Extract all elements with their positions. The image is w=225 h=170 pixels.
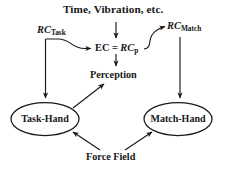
- edge-rctask-to-ec: [46, 39, 92, 49]
- rc-task-base: RC: [37, 24, 51, 35]
- rc-match-base: RC: [167, 20, 181, 31]
- rc-task-label: RCTask: [37, 25, 66, 35]
- ec-rhs-subscript: p: [134, 46, 138, 55]
- edge-forcefield-to-matchhand: [125, 132, 152, 150]
- diagram-canvas: Time, Vibration, etc. RCTask RCMatch EC=…: [0, 0, 225, 170]
- ec-rhs-base: RC: [120, 42, 134, 53]
- rc-match-subscript: Match: [181, 24, 202, 33]
- ec-lhs: EC: [95, 42, 109, 53]
- ec-equals: =: [112, 42, 118, 53]
- rc-match-label: RCMatch: [167, 21, 201, 31]
- task-hand-label: Task-Hand: [11, 114, 79, 124]
- rc-task-subscript: Task: [51, 28, 66, 37]
- title-input-label: Time, Vibration, etc.: [63, 4, 163, 15]
- edge-taskhand-to-perception: [73, 84, 104, 108]
- edge-ec-to-rcmatch: [144, 27, 165, 50]
- ec-equation-label: EC=RCp: [95, 43, 138, 53]
- force-field-label: Force Field: [86, 152, 135, 162]
- match-hand-label: Match-Hand: [144, 114, 212, 124]
- edge-forcefield-to-taskhand: [73, 132, 100, 150]
- perception-label: Perception: [90, 70, 137, 80]
